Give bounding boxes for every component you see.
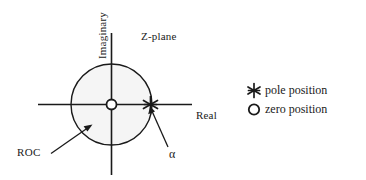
z-plane-label: Z-plane — [141, 30, 177, 42]
zero-marker — [107, 100, 117, 110]
legend-label-pole: pole position — [265, 84, 327, 97]
asterisk-icon — [243, 81, 265, 100]
alpha-leader-arrow — [148, 106, 168, 147]
imaginary-axis-label: Imaginary — [96, 12, 108, 59]
legend-label-zero: zero position — [265, 103, 327, 116]
legend: pole position zero position — [243, 81, 363, 119]
alpha-label: α — [169, 148, 176, 160]
roc-label: ROC — [17, 146, 41, 158]
legend-item-zero: zero position — [243, 100, 363, 119]
circle-outline-icon — [243, 100, 265, 119]
real-axis-label: Real — [196, 109, 217, 121]
roc-leader-arrow — [51, 125, 93, 154]
zplane-figure: Imaginary Z-plane Real ROC α pole positi… — [0, 0, 366, 180]
legend-item-pole: pole position — [243, 81, 363, 100]
